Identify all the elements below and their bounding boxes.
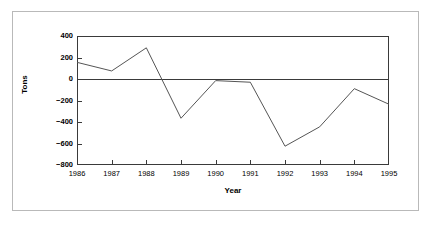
plot-frame [78, 37, 389, 165]
y-tick-label: −600 [33, 139, 73, 148]
y-axis-title: Tons [20, 55, 29, 115]
data-series-tons [77, 48, 389, 146]
y-tick-label: 0 [33, 74, 73, 83]
chart-canvas [77, 36, 389, 165]
y-tick-label: −400 [33, 117, 73, 126]
y-tick-label: −800 [33, 160, 73, 169]
y-tick-label: 200 [33, 53, 73, 62]
y-tick-label: 400 [33, 31, 73, 40]
x-axis-title: Year [77, 186, 389, 195]
x-tick-label: 1995 [369, 169, 409, 178]
y-tick-label: −200 [33, 96, 73, 105]
chart-figure: Tons Year 4002000−200−400−600−8001986198… [0, 0, 431, 232]
plot-area [77, 36, 389, 165]
